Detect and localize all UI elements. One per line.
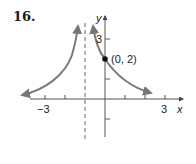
point-label: (0, 2) [111,53,137,65]
y-tick-label-3: 3 [96,33,102,45]
x-axis-label: x [176,103,183,115]
left-branch-curve [22,26,78,95]
y-ticks [105,39,110,119]
y-axis-label: y [95,12,103,24]
graph: (0, 2) 3 −3 3 x y [0,0,196,164]
point-0-2 [102,56,108,62]
x-tick-label-3: 3 [161,103,167,115]
x-tick-label-neg3: −3 [37,103,50,115]
